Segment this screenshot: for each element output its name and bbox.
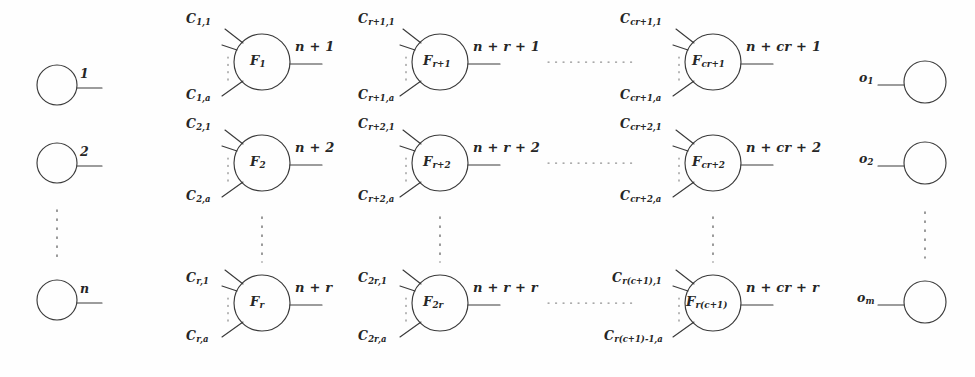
output-node-o1 xyxy=(878,61,946,103)
input-label-1: 1 xyxy=(80,68,89,81)
arm-bottom xyxy=(400,322,421,337)
function-label-Frc1: Fr(c+1) xyxy=(686,295,727,310)
input-node-2 xyxy=(37,143,102,183)
function-label-Fcr1: Fcr+1 xyxy=(692,54,725,69)
output-label-om: om xyxy=(857,292,875,305)
arm-mid xyxy=(673,146,688,151)
arm-top xyxy=(676,29,694,43)
output-label-Fr2: n + r + 2 xyxy=(473,141,540,154)
coeff-label-top-Fcr2: Ccr+2,1 xyxy=(620,118,662,131)
input-node-n xyxy=(37,280,102,320)
output-label-Fr1: n + r + 1 xyxy=(473,40,540,53)
coeff-label-bottom-Fcr2: Ccr+2,a xyxy=(620,190,661,203)
coeff-label-bottom-F1: C1,a xyxy=(186,89,211,102)
function-label-F2r: F2r xyxy=(423,295,443,310)
coeff-label-top-Fcr1: Ccr+1,1 xyxy=(620,13,662,26)
input-circle xyxy=(37,280,77,320)
output-node-o2 xyxy=(878,142,946,184)
arm-mid xyxy=(673,45,688,50)
input-circle xyxy=(37,143,77,183)
coeff-label-top-Fr: Cr,1 xyxy=(186,272,209,285)
arm-bottom xyxy=(400,81,421,96)
arm-mid xyxy=(400,286,415,291)
coeff-label-bottom-Fr: Cr,a xyxy=(186,330,208,343)
arm-mid xyxy=(222,146,237,151)
arm-bottom xyxy=(222,182,243,197)
output-label-Fcr1: n + cr + 1 xyxy=(746,40,821,53)
output-label-o2: o2 xyxy=(859,153,873,166)
coeff-label-top-F1: C1,1 xyxy=(186,13,211,26)
coeff-label-top-F2r: C2r,1 xyxy=(358,272,387,285)
output-label-F2: n + 2 xyxy=(295,141,334,154)
input-circle xyxy=(37,65,77,105)
coeff-label-bottom-Fr1: Cr+1,a xyxy=(358,89,394,102)
arm-bottom xyxy=(222,322,243,337)
arm-top xyxy=(676,130,694,144)
function-label-Fcr2: Fcr+2 xyxy=(692,155,725,170)
output-circle xyxy=(904,281,946,323)
arm-bottom xyxy=(673,322,694,337)
function-label-Fr2: Fr+2 xyxy=(423,155,451,170)
arm-bottom xyxy=(400,182,421,197)
output-label-o1: o1 xyxy=(859,72,873,85)
diagram-vector-layer xyxy=(0,0,975,377)
output-node-om xyxy=(878,281,946,323)
coeff-label-bottom-Fr2: Cr+2,a xyxy=(358,190,394,203)
arm-mid xyxy=(222,45,237,50)
output-label-Frc1: n + cr + r xyxy=(746,281,819,294)
output-label-F1: n + 1 xyxy=(295,40,334,53)
output-label-F2r: n + r + r xyxy=(473,281,538,294)
coeff-label-top-Frc1: Cr(c+1),1 xyxy=(612,272,662,285)
arm-mid xyxy=(400,146,415,151)
coeff-label-top-F2: C2,1 xyxy=(186,118,211,131)
arm-top xyxy=(225,29,243,43)
function-label-F1: F1 xyxy=(250,54,266,69)
output-circle xyxy=(904,61,946,103)
arm-top xyxy=(225,270,243,284)
function-label-F2: F2 xyxy=(250,155,266,170)
coeff-label-bottom-F2: C2,a xyxy=(186,190,211,203)
input-node-1 xyxy=(37,65,102,105)
input-label-2: 2 xyxy=(80,146,89,159)
arm-mid xyxy=(673,286,688,291)
arm-top xyxy=(225,130,243,144)
arm-bottom xyxy=(673,182,694,197)
coeff-label-top-Fr1: Cr+1,1 xyxy=(358,13,395,26)
function-label-Fr: Fr xyxy=(250,295,264,310)
arm-top xyxy=(403,130,421,144)
output-label-Fr: n + r xyxy=(295,281,332,294)
figure-canvas: 1 2 n C1,1 C1,a F1 n + 1 C2,1 C2,a F2 n … xyxy=(0,0,975,377)
function-label-Fr1: Fr+1 xyxy=(423,54,451,69)
coeff-label-bottom-Fcr1: Ccr+1,a xyxy=(620,89,661,102)
coeff-label-top-Fr2: Cr+2,1 xyxy=(358,118,395,131)
input-label-n: n xyxy=(80,283,89,296)
arm-bottom xyxy=(673,81,694,96)
arm-top xyxy=(403,29,421,43)
arm-top xyxy=(676,270,694,284)
coeff-label-bottom-Frc1: Cr(c+1)-1,a xyxy=(604,330,663,343)
coeff-label-bottom-F2r: C2r,a xyxy=(358,330,386,343)
arm-mid xyxy=(400,45,415,50)
output-label-Fcr2: n + cr + 2 xyxy=(746,141,821,154)
arm-top xyxy=(403,270,421,284)
arm-bottom xyxy=(222,81,243,96)
output-circle xyxy=(904,142,946,184)
arm-mid xyxy=(222,286,237,291)
